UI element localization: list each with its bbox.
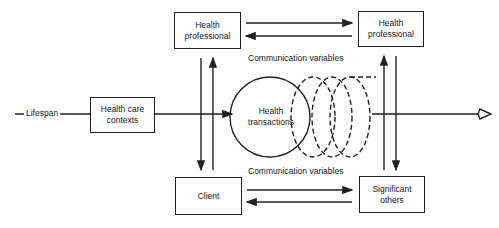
node-label: Health care contexts <box>98 104 148 126</box>
communication-variables-bottom-label: Communication variables <box>248 166 343 176</box>
health-transactions-label: Health transactions <box>244 106 298 128</box>
node-significant-others: Significant others <box>359 176 425 213</box>
lifespan-label: Lifespan <box>24 108 60 118</box>
communication-variables-top-label: Communication variables <box>248 53 343 63</box>
transaction-loop-dashed-2 <box>312 77 352 157</box>
node-client: Client <box>175 177 242 215</box>
node-label: Significant others <box>366 184 418 206</box>
node-label: Health professional <box>182 20 234 42</box>
open-arrow-head-icon <box>478 109 491 119</box>
node-health-professional-left: Health professional <box>174 12 241 49</box>
node-health-professional-right: Health professional <box>358 11 424 47</box>
node-label: Health professional <box>365 18 417 40</box>
transaction-loop-dashed-3 <box>330 77 370 157</box>
node-health-care-contexts: Health care contexts <box>90 97 155 133</box>
node-label: Client <box>198 191 220 202</box>
